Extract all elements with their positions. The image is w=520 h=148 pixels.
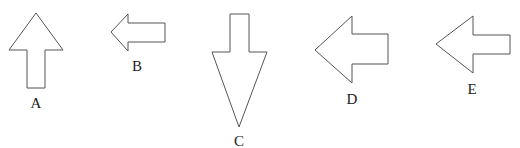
arrow-e-label: E bbox=[467, 81, 476, 97]
arrow-a-label: A bbox=[31, 95, 42, 111]
left-arrow-icon bbox=[315, 16, 388, 83]
arrow-c-label: C bbox=[234, 133, 244, 148]
arrow-diagram: A B C D E bbox=[0, 0, 520, 148]
arrow-c: C bbox=[212, 14, 267, 148]
left-arrow-icon bbox=[436, 16, 510, 73]
arrow-b-label: B bbox=[132, 58, 142, 74]
arrow-b: B bbox=[111, 14, 165, 74]
down-arrow-icon bbox=[212, 14, 267, 127]
arrow-e: E bbox=[436, 16, 510, 97]
up-arrow-icon bbox=[9, 13, 63, 88]
arrow-d: D bbox=[315, 16, 388, 107]
left-arrow-icon bbox=[111, 14, 165, 51]
arrow-a: A bbox=[9, 13, 63, 111]
arrow-d-label: D bbox=[347, 91, 358, 107]
